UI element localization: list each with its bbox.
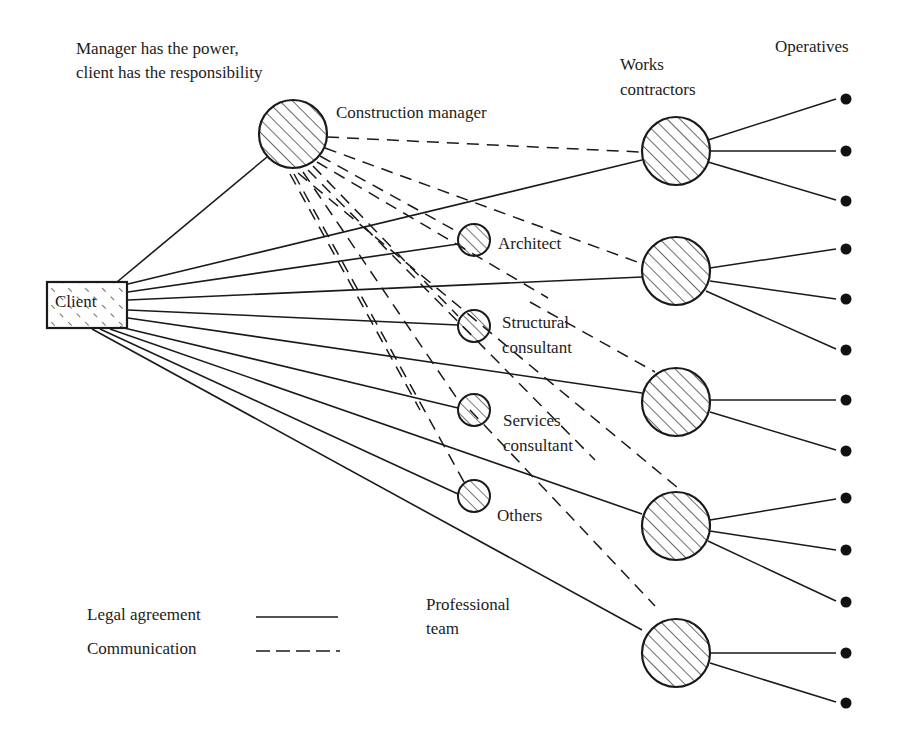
construction-manager-label: Construction manager	[336, 102, 487, 123]
professional-team-label-line-2: team	[426, 618, 459, 639]
operative-dot	[841, 94, 852, 105]
operative-dot	[841, 545, 852, 556]
operative-dot	[841, 196, 852, 207]
legal-agreement-lines	[92, 157, 642, 630]
operatives-label: Operatives	[775, 36, 849, 57]
operative-dot	[841, 698, 852, 709]
operative-dot	[841, 648, 852, 659]
services-consultant-node[interactable]	[458, 394, 490, 426]
operative-dot	[841, 244, 852, 255]
operative-lines	[706, 99, 836, 702]
others-node[interactable]	[458, 480, 490, 512]
operative-dots	[841, 94, 852, 709]
communication-lines	[290, 137, 678, 606]
caption-line-1: Manager has the power,	[76, 38, 239, 59]
structural-consultant-label-line-2: consultant	[502, 337, 572, 358]
operative-dot	[841, 395, 852, 406]
services-consultant-label-line-1: Services	[503, 410, 561, 431]
works-contractor-node[interactable]	[642, 368, 710, 436]
operative-dot	[841, 345, 852, 356]
works-contractor-node[interactable]	[642, 237, 710, 305]
structural-consultant-node[interactable]	[458, 310, 490, 342]
caption-line-2: client has the responsibility	[76, 62, 263, 83]
works-contractor-node[interactable]	[642, 117, 710, 185]
legend-legal-agreement-label: Legal agreement	[87, 604, 201, 625]
works-contractors-label-line-1: Works	[620, 54, 664, 75]
operative-dot	[841, 294, 852, 305]
client-label: Client	[55, 292, 97, 312]
operative-dot	[841, 493, 852, 504]
professional-team-label-line-1: Professional	[426, 594, 510, 615]
services-consultant-label-line-2: consultant	[503, 435, 573, 456]
operative-dot	[841, 146, 852, 157]
structural-consultant-label-line-1: Structural	[502, 312, 569, 333]
legend-communication-label: Communication	[87, 638, 197, 659]
others-label: Others	[497, 505, 542, 526]
architect-label: Architect	[498, 233, 561, 254]
construction-manager-node[interactable]	[259, 100, 327, 168]
operative-dot	[841, 446, 852, 457]
works-contractor-node[interactable]	[642, 619, 710, 687]
works-contractors-label-line-2: contractors	[620, 79, 696, 100]
operative-dot	[841, 597, 852, 608]
works-contractor-node[interactable]	[642, 492, 710, 560]
architect-node[interactable]	[458, 224, 490, 256]
